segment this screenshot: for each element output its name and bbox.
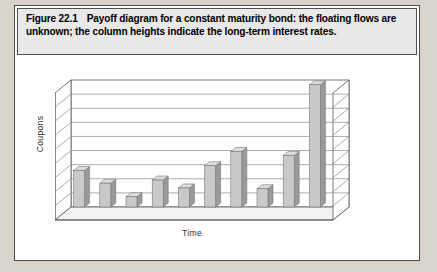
bar-side-face (163, 176, 168, 207)
bar-column (100, 179, 116, 207)
bar-front-face (126, 197, 137, 207)
bar-side-face (216, 162, 221, 207)
page-canvas: Figure 22.1Payoff diagram for a constant… (0, 0, 437, 272)
bar-front-face (283, 155, 294, 207)
bar-column (283, 151, 299, 207)
bar-side-face (294, 151, 299, 207)
bar-front-face (309, 85, 320, 207)
bar-front-face (100, 183, 111, 207)
bar-chart-svg (55, 68, 367, 223)
bar-side-face (320, 81, 325, 207)
bar-column (205, 162, 221, 207)
bar-side-face (242, 147, 247, 207)
bar-column (152, 176, 168, 207)
bar-column (309, 81, 325, 207)
bar-side-face (111, 179, 116, 207)
bar-front-face (231, 151, 242, 207)
bar-column (126, 193, 142, 207)
figure-caption-text: Figure 22.1Payoff diagram for a constant… (26, 13, 409, 38)
bar-front-face (152, 180, 163, 207)
bar-column (231, 147, 247, 207)
chart-walls (55, 80, 349, 220)
bar-front-face (74, 170, 85, 207)
bar-chart-plot (55, 68, 367, 223)
bar-column (257, 185, 273, 207)
figure-caption-body: Payoff diagram for a constant maturity b… (26, 13, 396, 37)
figure-box: Figure 22.1Payoff diagram for a constant… (14, 5, 420, 261)
bar-front-face (178, 188, 189, 207)
bar-side-face (85, 166, 90, 207)
chart-area: Coupons Time (17, 57, 417, 258)
x-axis-label: Time (137, 228, 247, 238)
figure-caption-bar: Figure 22.1Payoff diagram for a constant… (17, 8, 417, 55)
bar-front-face (205, 166, 216, 207)
floor (55, 207, 349, 220)
y-axis-label: Coupons (35, 99, 45, 169)
figure-number-label: Figure 22.1 (26, 13, 78, 24)
bar-column (178, 184, 194, 207)
bar-column (74, 166, 90, 207)
bar-front-face (257, 189, 268, 207)
